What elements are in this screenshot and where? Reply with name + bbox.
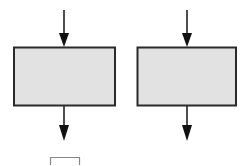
arrow-out-of-block-2 (182, 106, 192, 141)
partial-block (51, 158, 80, 166)
arrow-into-block-1 (59, 10, 69, 47)
flow-diagram (0, 0, 242, 165)
block-1 (14, 48, 115, 106)
block-2 (138, 48, 237, 106)
arrow-out-of-block-1 (59, 106, 69, 141)
arrow-into-block-2 (182, 10, 192, 47)
